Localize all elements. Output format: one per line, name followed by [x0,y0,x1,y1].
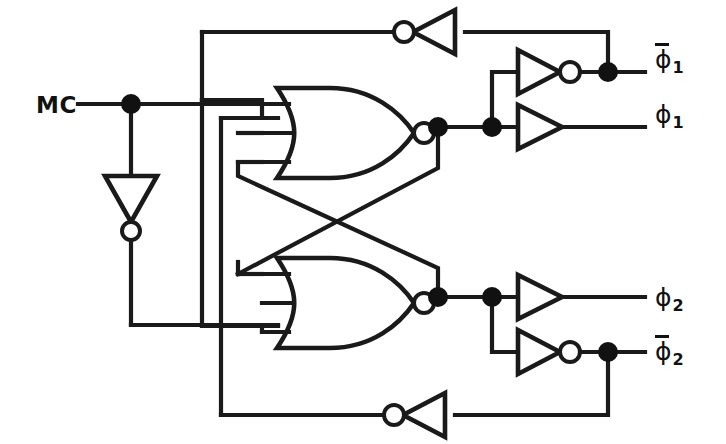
input-label-mc: MC [36,92,77,118]
inverter-phi2bar-bubble [560,342,580,362]
junction-dot-phi1-a [428,117,448,137]
inverter-phi1bar-bubble [560,62,580,82]
phi2-bar-glyph: ϕ [655,337,672,366]
inverter-mc-bubble [122,222,140,240]
junction-dot-phi2-a [428,287,448,307]
inverter-fb-top-triangle [413,10,455,54]
junction-dot-phi2-b [482,287,502,307]
phi2-bar-subscript: 2 [672,350,684,369]
logic-diagram-svg [0,0,726,444]
phi2-glyph: ϕ [655,283,672,312]
buffer-phi2-triangle [518,275,562,319]
inverter-fb-top-bubble [394,22,414,42]
inverter-fb-bot-triangle [403,393,445,437]
nor-gate-lower [277,258,414,348]
phi1-glyph: ϕ [655,100,672,129]
phi1-subscript: 1 [672,113,684,132]
output-label-phi2-bar: ϕ2 [655,337,684,369]
junction-dot-phi1-b [482,117,502,137]
junction-dot-mc [121,94,141,114]
output-label-phi1: ϕ1 [655,100,684,132]
inverter-phi2bar-triangle [518,330,560,374]
phi1-bar-subscript: 1 [672,58,684,77]
output-label-phi1-bar: ϕ1 [655,45,684,77]
junction-dot-phi2bar [598,342,618,362]
inverter-fb-bot-bubble [384,405,404,425]
inverter-phi1bar-triangle [518,50,560,94]
junction-dot-phi1bar [598,62,618,82]
nor-gate-upper [277,88,414,178]
schematic-canvas: MC ϕ1 ϕ1 ϕ2 ϕ2 [0,0,726,444]
phi1-bar-glyph: ϕ [655,45,672,74]
buffer-phi1-triangle [518,105,562,149]
output-label-phi2: ϕ2 [655,283,684,315]
wire-mcbar-to-nor-lower [131,240,278,325]
phi2-subscript: 2 [672,296,684,315]
inverter-mc-triangle [105,176,157,222]
